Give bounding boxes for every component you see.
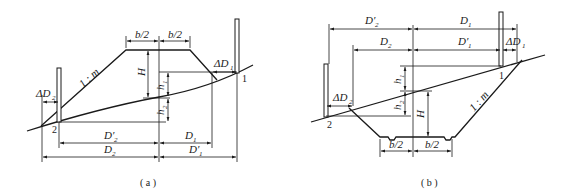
label-h2-sub: 2 [398, 100, 406, 104]
label-h1: h 1 [391, 75, 406, 85]
label-delta-d1: ΔD 1 [505, 35, 526, 50]
label-d2-prime: D′ 2 [103, 129, 118, 144]
caption-b: ( b ) [421, 177, 438, 189]
label-d1: D 1 [184, 129, 197, 144]
cut-outline [349, 60, 522, 140]
label-delta-d1-sub: 1 [522, 42, 526, 50]
label-delta-d2-sub: 2 [349, 98, 353, 106]
label-d2-prime-sub: 2 [114, 136, 118, 144]
label-b-half-right: b/2 [425, 138, 440, 150]
label-point-2: 2 [52, 124, 57, 135]
label-d2-main: D [103, 143, 112, 155]
label-h1-sub: 1 [161, 81, 169, 85]
label-d1-main: D [459, 14, 468, 26]
label-d1-prime: D′ 1 [188, 143, 203, 158]
label-delta-d2: ΔD 2 [332, 91, 353, 106]
label-d1-sub: 1 [468, 21, 472, 29]
label-delta-d1: ΔD 1 [213, 57, 234, 72]
label-point-1: 1 [499, 70, 504, 81]
label-slope: 1 : m [76, 65, 101, 89]
label-b-half-left: b/2 [135, 28, 150, 40]
label-h1-sub: 1 [398, 75, 406, 79]
stake-left [57, 68, 61, 122]
figure-b-cutting: D′ 2 D 1 D 2 D′ 1 ΔD 1 ΔD 2 h 1 h 2 [311, 12, 545, 189]
label-b-half-left: b/2 [389, 138, 404, 150]
label-delta-d1-sub: 1 [230, 64, 234, 72]
label-point-2: 2 [327, 119, 332, 130]
diagram-canvas: b/2 b/2 1 : m H h 1 h 2 ΔD 1 ΔD 2 D′ 2 D… [0, 0, 561, 193]
stake-right [235, 19, 239, 73]
label-delta-d2: ΔD 2 [35, 87, 56, 102]
stake-right [499, 12, 503, 66]
embankment-outline [41, 50, 217, 126]
label-h2-sub: 2 [161, 105, 169, 109]
figure-a-embankment: b/2 b/2 1 : m H h 1 h 2 ΔD 1 ΔD 2 D′ 2 D… [27, 19, 253, 189]
label-d1-prime-sub: 1 [199, 150, 203, 158]
caption-a: ( a ) [140, 177, 156, 189]
label-delta-d1-main: ΔD [213, 57, 228, 69]
label-delta-d1-main: ΔD [505, 35, 520, 47]
label-height: H [414, 109, 426, 119]
label-delta-d2-sub: 2 [52, 94, 56, 102]
label-delta-d2-main: ΔD [35, 87, 50, 99]
label-h1: h 1 [154, 81, 169, 91]
label-d2-prime: D′ 2 [364, 14, 379, 29]
label-d2: D 2 [379, 35, 392, 50]
label-delta-d2-main: ΔD [332, 91, 347, 103]
label-d2-sub: 2 [388, 42, 392, 50]
stake-left [324, 64, 328, 117]
label-d1: D 1 [459, 14, 472, 29]
label-d2-prime-sub: 2 [375, 21, 379, 29]
label-d1-main: D [184, 129, 193, 141]
label-point-1: 1 [242, 73, 247, 84]
label-d1-prime-sub: 1 [468, 42, 472, 50]
label-d2-sub: 2 [112, 150, 116, 158]
label-b-half-right: b/2 [168, 28, 183, 40]
label-h2: h 2 [391, 100, 406, 110]
label-height: H [135, 67, 147, 77]
label-d2: D 2 [103, 143, 116, 158]
label-d2-main: D [379, 35, 388, 47]
label-d1-prime: D′ 1 [457, 35, 472, 50]
label-h2: h 2 [154, 105, 169, 115]
